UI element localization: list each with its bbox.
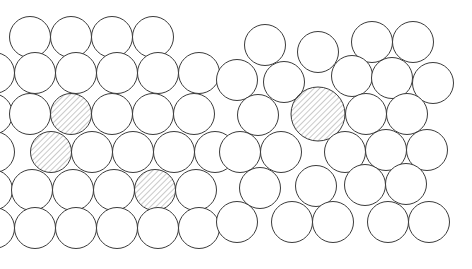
host-atom xyxy=(138,208,179,249)
host-atom xyxy=(332,56,373,97)
host-atom xyxy=(10,17,51,58)
host-atom xyxy=(133,94,174,135)
host-atom xyxy=(238,95,279,136)
host-atom xyxy=(53,170,94,211)
host-atom xyxy=(296,166,337,207)
impurity-atom xyxy=(51,94,92,135)
host-atom xyxy=(261,132,302,173)
host-atom xyxy=(15,53,56,94)
host-atom xyxy=(245,25,286,66)
host-atom xyxy=(174,94,215,135)
host-atom xyxy=(368,202,409,243)
host-atom xyxy=(133,17,174,58)
host-atom xyxy=(113,132,154,173)
host-atom xyxy=(94,170,135,211)
host-atom xyxy=(409,202,450,243)
host-atom xyxy=(346,94,387,135)
host-atom xyxy=(97,53,138,94)
lattice-figure xyxy=(0,0,472,269)
host-atom xyxy=(92,94,133,135)
host-atom xyxy=(217,202,258,243)
impurity-atom xyxy=(135,170,176,211)
host-atom xyxy=(97,208,138,249)
host-atom xyxy=(313,202,354,243)
impurity-atom xyxy=(31,132,72,173)
host-atom xyxy=(387,94,428,135)
host-atom xyxy=(345,165,386,206)
lattice-diagram-svg xyxy=(0,0,472,269)
host-atom xyxy=(240,168,281,209)
host-atom xyxy=(138,53,179,94)
host-atom xyxy=(51,17,92,58)
host-atom xyxy=(179,208,220,249)
host-atom xyxy=(220,132,261,173)
host-atom xyxy=(10,94,51,135)
host-atom xyxy=(393,22,434,63)
host-atom xyxy=(72,132,113,173)
host-atom xyxy=(372,58,413,99)
host-atom xyxy=(298,32,339,73)
host-atom xyxy=(56,53,97,94)
host-atom xyxy=(179,53,220,94)
host-atom xyxy=(56,208,97,249)
host-atom xyxy=(154,132,195,173)
host-atom xyxy=(217,60,258,101)
host-atom xyxy=(12,170,53,211)
oversized-substitutional-panel xyxy=(217,22,454,243)
host-atom xyxy=(176,170,217,211)
host-atom xyxy=(15,208,56,249)
host-atom xyxy=(92,17,133,58)
host-atom xyxy=(272,202,313,243)
host-atom xyxy=(386,164,427,205)
